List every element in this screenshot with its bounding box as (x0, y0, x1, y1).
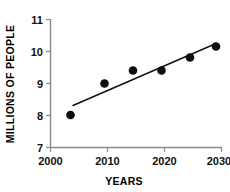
x-tick-label-2010: 2010 (95, 155, 119, 167)
data-point (129, 66, 138, 75)
y-tick-label-10: 10 (31, 46, 43, 58)
x-tick-label-2020: 2020 (152, 155, 176, 167)
scatter-chart-figure: 7 8 9 10 11 2000 2010 2020 2030 MILLIONS… (0, 0, 230, 192)
x-tick-label-2000: 2000 (38, 155, 62, 167)
x-axis-title: YEARS (105, 175, 143, 187)
chart-canvas: 7 8 9 10 11 2000 2010 2020 2030 MILLIONS… (0, 0, 230, 192)
x-tick-label-2030: 2030 (207, 155, 230, 167)
data-point (66, 111, 75, 120)
data-point (186, 53, 195, 62)
trend-line (73, 44, 216, 106)
data-point (157, 66, 166, 75)
y-tick-label-8: 8 (37, 110, 43, 122)
y-axis-title: MILLIONS OF PEOPLE (4, 25, 16, 144)
data-point (100, 79, 109, 88)
data-point (212, 42, 221, 51)
y-tick-label-9: 9 (37, 78, 43, 90)
y-tick-label-7: 7 (37, 142, 43, 154)
y-tick-label-11: 11 (31, 14, 43, 26)
